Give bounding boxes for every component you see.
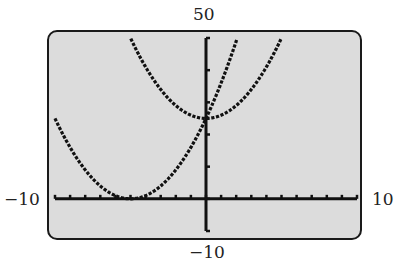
curve-shifted-parabola [55, 39, 237, 199]
ymax-label: 50 [193, 6, 215, 23]
curves [55, 38, 282, 199]
ymin-label: −10 [189, 244, 225, 261]
graph-plot [0, 0, 397, 269]
xmax-label: 10 [372, 191, 394, 208]
axes [55, 38, 357, 231]
xmin-label: −10 [4, 191, 40, 208]
